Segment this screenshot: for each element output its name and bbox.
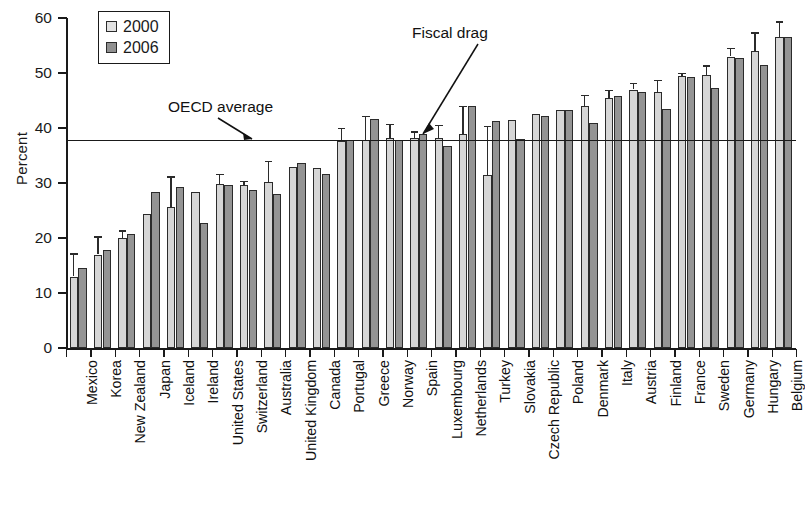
x-axis-tick [90,349,91,357]
bar [678,76,686,348]
bar-group [334,18,358,348]
error-bar-cap [435,125,443,126]
bar [492,121,500,348]
x-axis-category-label: Denmark [595,360,611,418]
fiscal-drag-annotation: Fiscal drag [412,24,488,42]
x-axis-category-label: Sweden [716,360,732,411]
bar [727,57,735,349]
x-axis-tick [285,349,286,357]
bar [735,58,743,348]
bar [662,109,670,348]
bar [151,192,159,348]
bar [395,140,403,348]
bar [200,223,208,348]
bar [541,116,549,348]
y-axis-tick-label: 30 [12,175,52,191]
bar [143,214,151,348]
chart-legend: 2000 2006 [98,11,170,64]
oecd-average-reference-line [66,140,796,142]
x-axis-tick [699,349,700,357]
x-axis-tick [358,349,359,357]
bar [322,174,330,348]
bar [532,114,540,348]
x-axis-tick [601,349,602,357]
bar-group [188,18,212,348]
error-bar-cap [581,95,589,96]
bar [249,190,257,348]
error-bar-cap [338,128,346,129]
bar-group [553,18,577,348]
bar [459,134,467,349]
bar-group [90,18,114,348]
bar [483,175,491,348]
bar [297,163,305,348]
x-axis-tick [212,349,213,357]
bar [775,37,783,348]
plot-area [66,18,796,348]
x-axis-tick [139,349,140,357]
bar [565,110,573,348]
x-axis-category-label: Switzerland [254,360,270,433]
x-axis-category-label: Korea [108,360,124,398]
bar-group [480,18,504,348]
bar-group [236,18,260,348]
x-axis-category-label: Finland [668,360,684,407]
error-bar-cap [386,124,394,125]
legend-label-2006: 2006 [123,40,159,56]
bar [264,182,272,348]
bar-group [309,18,333,348]
x-axis-category-label: France [692,360,708,404]
x-axis-tick [747,349,748,357]
y-axis-tick-label: 50 [12,65,52,81]
error-bar-cap [776,21,784,22]
x-axis-category-label: Canada [327,360,343,410]
x-axis-tick [626,349,627,357]
bar [435,138,443,348]
bar [313,168,321,348]
error-bar-cap [605,90,613,91]
y-axis-tick-label: 0 [12,340,52,356]
bar-group [212,18,236,348]
bar [702,75,710,348]
y-axis-tick-label: 40 [12,120,52,136]
error-bar-cap [484,126,492,127]
x-axis-tick [431,349,432,357]
bar [410,138,418,348]
error-bar-cap [119,230,127,231]
x-axis-tick [723,349,724,357]
bar [468,106,476,348]
x-axis-category-label: Luxembourg [449,360,465,439]
error-bar-cap [216,174,224,175]
x-axis-tick [115,349,116,357]
bar [556,110,564,348]
bar [176,187,184,348]
bar-group [504,18,528,348]
bar-group [723,18,747,348]
x-axis-category-label: Turkey [497,360,513,403]
x-axis-category-label: Australia [278,360,294,415]
y-axis-tick-label: 20 [12,230,52,246]
x-axis-tick [66,349,67,357]
y-axis-tick-label: 10 [12,285,52,301]
x-axis-tick [674,349,675,357]
error-bar-stem [170,176,171,207]
error-bar-stem [219,174,220,184]
x-axis-category-label: Germany [741,360,757,418]
x-axis-category-label: Slovakia [522,360,538,414]
x-axis-tick [334,349,335,357]
bar-group [358,18,382,348]
error-bar-cap [459,106,467,107]
error-bar-cap [167,176,175,177]
x-axis-tick [553,349,554,357]
bar-group [577,18,601,348]
x-axis-category-label: Belgium [789,360,805,411]
bar-group [285,18,309,348]
bar [94,255,102,349]
bar [78,268,86,348]
x-axis-tick [382,349,383,357]
x-axis-tick [577,349,578,357]
bar [346,140,354,348]
legend-entry-2000: 2000 [106,16,159,37]
x-axis-category-label: Poland [570,360,586,404]
bar [516,139,524,348]
